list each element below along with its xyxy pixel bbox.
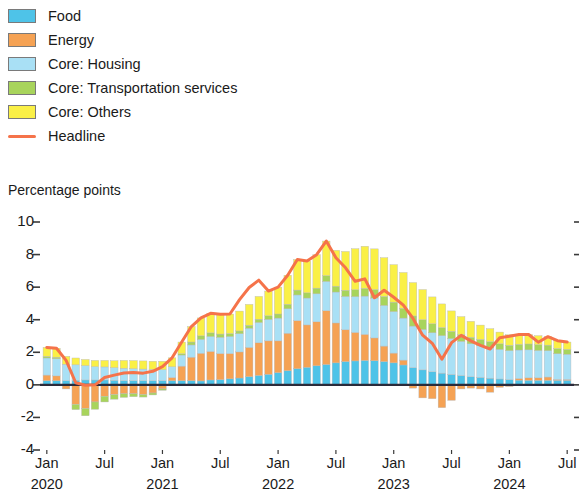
bar-segment: [332, 286, 340, 292]
x-axis-tick-label: Jul: [194, 455, 246, 471]
bar-segment: [53, 357, 61, 359]
bar-segment: [236, 311, 244, 331]
bar-segment: [515, 379, 523, 381]
bar-segment: [535, 350, 543, 377]
bar-segment: [255, 375, 263, 384]
bar-segment: [139, 395, 147, 397]
bar-segment: [284, 304, 292, 309]
bar-segment: [554, 354, 562, 380]
bar-segment: [168, 378, 176, 381]
x-axis-year-label: 2021: [136, 476, 188, 492]
bar-segment: [361, 288, 369, 296]
bar-segment: [284, 371, 292, 385]
x-axis-tick-label: Jan: [21, 455, 73, 471]
bar-segment: [313, 322, 321, 366]
bar-segment: [188, 357, 196, 381]
y-axis-tick-label: 10: [0, 212, 34, 229]
bar-segment: [274, 373, 282, 385]
bar-segment: [226, 334, 234, 337]
x-axis-tick-label: Jan: [368, 455, 420, 471]
bar-segment: [332, 323, 340, 363]
bar-segment: [429, 324, 437, 333]
bar-segment: [429, 333, 437, 372]
bar-segment: [245, 325, 253, 328]
bar-segment: [323, 276, 331, 282]
bar-segment: [400, 360, 408, 365]
y-axis-tick-label: 6: [0, 277, 34, 294]
bar-segment: [149, 385, 157, 393]
bar-segment: [467, 344, 475, 377]
x-axis-tick-label: Jan: [252, 455, 304, 471]
bar-segment: [371, 338, 379, 361]
bar-segment: [43, 356, 51, 358]
bar-segment: [274, 341, 282, 373]
bar-segment: [448, 385, 456, 400]
bar-segment: [265, 316, 273, 320]
bar-segment: [265, 291, 273, 316]
bar-segment: [43, 358, 51, 375]
bar-segment: [506, 351, 514, 380]
bar-segment: [448, 374, 456, 384]
bar-segment: [380, 296, 388, 305]
bar-segment: [255, 319, 263, 322]
bar-segment: [101, 360, 109, 367]
bar-segment: [477, 346, 485, 378]
bar-segment: [207, 336, 215, 351]
bar-segment: [467, 321, 475, 337]
bar-segment: [342, 296, 350, 329]
bar-segment: [351, 297, 359, 333]
plot-area: 1086420-2-4Jan2020JulJan2021JulJan2022Ju…: [0, 0, 579, 496]
bar-segment: [323, 281, 331, 310]
bar-segment: [303, 298, 311, 325]
bar-segment: [303, 325, 311, 367]
bar-segment: [400, 365, 408, 385]
bar-segment: [149, 393, 157, 395]
bar-segment: [486, 348, 494, 379]
bar-segment: [351, 249, 359, 290]
bar-segment: [188, 345, 196, 357]
bar-segment: [82, 408, 90, 415]
bar-segment: [313, 255, 321, 288]
bar-segment: [284, 309, 292, 333]
bar-segment: [342, 330, 350, 362]
x-axis-tick-label: Jul: [310, 455, 362, 471]
bar-segment: [139, 361, 147, 369]
bar-segment: [535, 378, 543, 380]
bar-segment: [457, 341, 465, 375]
bar-segment: [303, 261, 311, 293]
bar-segment: [506, 345, 514, 350]
bar-segment: [120, 360, 128, 368]
x-axis-tick-label: Jul: [426, 455, 478, 471]
bar-segment: [477, 325, 485, 339]
bar-segment: [390, 312, 398, 354]
bar-segment: [429, 385, 437, 399]
bar-segment: [274, 287, 282, 314]
bar-segment: [380, 346, 388, 361]
bar-segment: [236, 352, 244, 378]
bar-segment: [419, 370, 427, 385]
bar-segment: [284, 333, 292, 370]
bar-segment: [496, 344, 504, 350]
bar-segment: [361, 360, 369, 384]
bar-segment: [130, 361, 138, 369]
bar-segment: [226, 314, 234, 334]
bar-segment: [409, 326, 417, 368]
bar-segment: [419, 290, 427, 320]
bar-segment: [72, 385, 80, 405]
bar-segment: [351, 361, 359, 385]
chart-root: FoodEnergyCore: HousingCore: Transportat…: [0, 0, 579, 496]
bar-segment: [82, 359, 90, 365]
bar-segment: [82, 366, 90, 380]
bar-segment: [409, 283, 417, 316]
bar-segment: [525, 344, 533, 350]
bar-segment: [178, 366, 186, 381]
bar-segment: [525, 378, 533, 380]
bar-segment: [457, 317, 465, 335]
bar-segment: [486, 329, 494, 342]
bar-segment: [111, 361, 119, 368]
y-axis-tick-label: -2: [0, 407, 34, 424]
bar-segment: [197, 336, 205, 340]
bar-segment: [544, 377, 552, 380]
bar-segment: [390, 363, 398, 385]
y-axis-tick-label: 4: [0, 310, 34, 327]
